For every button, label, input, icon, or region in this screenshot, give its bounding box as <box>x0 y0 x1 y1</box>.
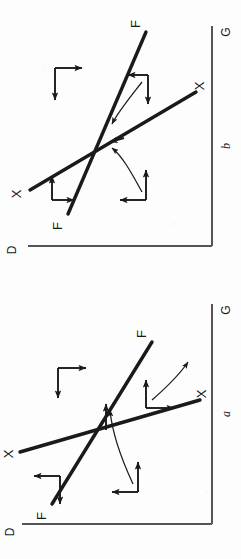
axis-label-G-b: G <box>219 27 233 36</box>
vector-pair-free-b <box>55 68 82 100</box>
panel-label-b: b <box>219 143 233 149</box>
label-x-left-b: X <box>9 189 24 198</box>
label-x-right-b: X <box>192 81 207 90</box>
panel-a: F F X X G D a <box>0 280 241 559</box>
label-f-top-b: F <box>128 20 143 28</box>
vector-pair-lower-b <box>120 170 146 200</box>
label-f-top-a: F <box>134 330 149 338</box>
vector-pair-free-a <box>58 368 86 398</box>
curved-arrow-lower-b <box>112 148 142 192</box>
curve-f-line <box>68 32 146 214</box>
label-x-right-a: X <box>194 389 209 398</box>
axes-group <box>22 304 212 524</box>
axis-label-G-a: G <box>219 305 233 314</box>
curve-f-line <box>52 342 152 504</box>
panel-label-a: a <box>219 411 233 417</box>
label-x-left-a: X <box>1 449 16 458</box>
figure-root: F F X X G D b <box>0 0 241 559</box>
vector-pair-x-left-b <box>52 176 74 200</box>
axis-label-D-a: D <box>3 527 17 536</box>
panel-b: F F X X G D b <box>0 0 241 279</box>
vector-pair-f-upper-b <box>128 75 148 104</box>
label-f-bottom-b: F <box>50 222 65 230</box>
label-f-bottom-a: F <box>34 512 49 520</box>
curved-arrow-upper-a <box>152 362 188 400</box>
axis-label-D-b: D <box>5 245 19 254</box>
